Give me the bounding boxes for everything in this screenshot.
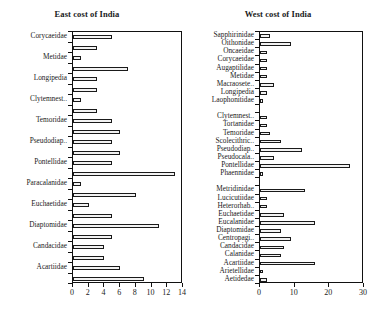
- category-label: Pseudodiap..: [183, 145, 257, 153]
- bar-row: [260, 178, 362, 186]
- bar-series-west: [260, 32, 362, 282]
- category-label: Phaennidae: [183, 169, 257, 177]
- x-tick-label: 2: [86, 288, 90, 297]
- bar-row: [260, 81, 362, 89]
- bar-row: [73, 148, 181, 159]
- x-tick-labels-east: 02468101214: [72, 288, 182, 300]
- category-label: Corycaeidae: [0, 31, 70, 42]
- bar: [73, 161, 112, 165]
- category-label: Longipedia: [0, 73, 70, 84]
- x-tick-label: 0: [70, 288, 74, 297]
- bar-row: [73, 32, 181, 43]
- category-label: Paracalanidae: [0, 178, 70, 189]
- bar: [260, 189, 305, 192]
- category-label: Longipedia: [183, 88, 257, 96]
- bar-row: [260, 260, 362, 268]
- bar-row: [73, 263, 181, 274]
- category-label-blank: [0, 105, 70, 116]
- bar: [73, 98, 81, 102]
- bar: [73, 224, 159, 228]
- bar: [73, 151, 120, 155]
- bar-row: [73, 190, 181, 201]
- bar: [260, 51, 267, 54]
- category-label: Clytemnest..: [183, 112, 257, 120]
- bar: [73, 266, 120, 270]
- bar-row: [73, 179, 181, 190]
- bar-row: [73, 127, 181, 138]
- bar-row: [260, 162, 362, 170]
- bar-row: [260, 211, 362, 219]
- category-label: Laophonitidae: [183, 96, 257, 104]
- bar: [260, 140, 281, 143]
- category-label: Euchaetidae: [0, 199, 70, 210]
- bar-row: [260, 251, 362, 259]
- bar-row: [260, 154, 362, 162]
- bar: [260, 124, 267, 127]
- bar: [260, 164, 350, 167]
- category-label: Temoridae: [183, 129, 257, 137]
- bar-row: [260, 268, 362, 276]
- category-label: Acartiidae: [183, 259, 257, 267]
- category-label-blank: [0, 231, 70, 242]
- bar-row: [73, 200, 181, 211]
- category-label-blank: [183, 104, 257, 112]
- category-label: Eucalanidae: [183, 218, 257, 226]
- x-tick: [103, 283, 104, 287]
- category-label: Arietellidae: [183, 267, 257, 275]
- bar-row: [73, 158, 181, 169]
- bar-row: [260, 65, 362, 73]
- bar-row: [260, 40, 362, 48]
- category-label: Oncaeidae: [183, 47, 257, 55]
- x-tick: [72, 283, 73, 287]
- category-label: Clytemnest..: [0, 94, 70, 105]
- bar: [260, 172, 263, 175]
- bar: [260, 213, 284, 216]
- category-label: Macraosete..: [183, 80, 257, 88]
- bar: [73, 172, 175, 176]
- category-label-blank: [0, 252, 70, 263]
- category-label-blank: [0, 147, 70, 158]
- category-label: Metridinidae: [183, 185, 257, 193]
- x-tick-marks-east: [72, 283, 182, 287]
- chart-panel-west: West cost of India SapphirinidaeOithonid…: [183, 0, 369, 315]
- category-label-blank: [0, 273, 70, 284]
- bar-row: [73, 74, 181, 85]
- x-tick-label: 30: [359, 288, 367, 297]
- category-label-blank: [0, 210, 70, 221]
- bar-row: [73, 95, 181, 106]
- bar-row: [73, 43, 181, 54]
- bar: [73, 109, 97, 113]
- bar-row: [73, 106, 181, 117]
- bar-row: [260, 97, 362, 105]
- bar-row: [260, 105, 362, 113]
- x-tick-marks-west: [259, 283, 363, 287]
- category-label-blank: [0, 126, 70, 137]
- bar: [260, 42, 291, 45]
- bar-row: [260, 32, 362, 40]
- category-label: Diaptomidae: [0, 220, 70, 231]
- x-tick: [151, 283, 152, 287]
- x-tick-label: 20: [324, 288, 332, 297]
- x-tick-label: 6: [117, 288, 121, 297]
- x-tick: [328, 283, 329, 287]
- bar-series-east: [73, 32, 181, 282]
- bar-row: [260, 48, 362, 56]
- bar-row: [260, 56, 362, 64]
- category-label: Augaptilidae: [183, 64, 257, 72]
- category-label-blank: [0, 189, 70, 200]
- bar: [260, 91, 267, 94]
- x-tick-labels-west: 0102030: [259, 288, 363, 300]
- category-label-blank: [0, 42, 70, 53]
- bar: [73, 245, 104, 249]
- bar-row: [260, 138, 362, 146]
- category-label: Pseudocala..: [183, 153, 257, 161]
- bar: [260, 270, 263, 273]
- category-label: Candacidae: [183, 242, 257, 250]
- bar-row: [260, 203, 362, 211]
- bar-row: [260, 219, 362, 227]
- category-label: Heterorhab..: [183, 202, 257, 210]
- category-label: Scolecithric..: [183, 137, 257, 145]
- category-label: Metidae: [0, 52, 70, 63]
- category-label: Oithonidae: [183, 39, 257, 47]
- bar-row: [73, 169, 181, 180]
